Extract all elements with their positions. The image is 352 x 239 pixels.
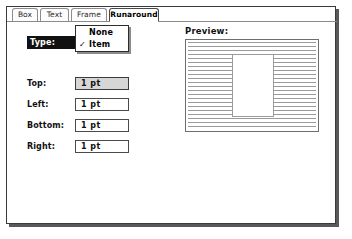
tab-bar: Box Text Frame Runaround xyxy=(7,7,337,22)
field-row-top: Top: 1 pt xyxy=(27,77,147,90)
preview-item-box xyxy=(232,54,274,117)
field-label-bottom: Bottom: xyxy=(27,120,64,131)
field-row-left: Left: 1 pt xyxy=(27,98,147,111)
field-row-right: Right: 1 pt xyxy=(27,140,147,153)
field-label-left: Left: xyxy=(27,99,49,110)
type-popup-menu[interactable]: None ✓ Item xyxy=(75,25,129,52)
field-label-top: Top: xyxy=(27,78,46,89)
field-value-left: 1 pt xyxy=(81,100,101,110)
tab-frame[interactable]: Frame xyxy=(71,8,107,21)
menu-item-item-check-icon: ✓ xyxy=(79,39,87,51)
menu-item-item-label: Item xyxy=(89,40,110,49)
tab-box[interactable]: Box xyxy=(12,8,38,21)
menu-item-none-label: None xyxy=(89,28,113,37)
field-value-right: 1 pt xyxy=(81,142,101,152)
field-input-left[interactable]: 1 pt xyxy=(75,98,129,111)
preview-panel xyxy=(185,39,319,132)
type-label: Type: xyxy=(30,38,55,47)
menu-item-item[interactable]: ✓ Item xyxy=(76,39,128,51)
runaround-settings-pane: Type: None ✓ Item Top: 1 pt Left: 1 pt xyxy=(7,22,175,224)
field-input-bottom[interactable]: 1 pt xyxy=(75,119,129,132)
tab-text[interactable]: Text xyxy=(40,8,69,21)
menu-item-none[interactable]: None xyxy=(76,27,128,39)
field-input-right[interactable]: 1 pt xyxy=(75,140,129,153)
field-row-bottom: Bottom: 1 pt xyxy=(27,119,147,132)
field-input-top[interactable]: 1 pt xyxy=(75,77,129,90)
field-value-top: 1 pt xyxy=(81,79,101,89)
active-tab-seam xyxy=(110,20,158,22)
field-label-right: Right: xyxy=(27,141,55,152)
preview-title: Preview: xyxy=(185,26,228,36)
field-value-bottom: 1 pt xyxy=(81,121,101,131)
runaround-dialog: Box Text Frame Runaround Type: None ✓ It… xyxy=(6,6,336,224)
